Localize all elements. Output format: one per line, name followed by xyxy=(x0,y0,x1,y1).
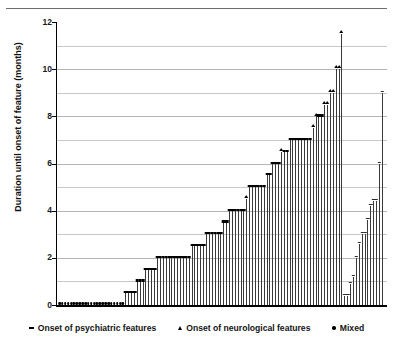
bar-series xyxy=(57,22,387,305)
dash-marker-icon xyxy=(153,268,157,270)
bar xyxy=(347,296,348,305)
bar xyxy=(370,206,371,305)
bar xyxy=(321,116,322,305)
x-axis-line xyxy=(56,305,387,307)
dash-marker-icon xyxy=(381,91,384,92)
dash-marker-icon xyxy=(29,327,34,329)
bar xyxy=(359,244,360,305)
dot-marker-icon xyxy=(332,326,335,329)
bar xyxy=(255,187,256,305)
triangle-marker-icon xyxy=(178,326,182,330)
bar xyxy=(140,281,141,305)
bar xyxy=(379,164,380,306)
bar xyxy=(241,211,242,305)
dash-marker-icon xyxy=(219,232,223,234)
bar xyxy=(200,246,201,305)
bar xyxy=(223,222,224,305)
bar xyxy=(353,277,354,305)
bar xyxy=(174,258,175,305)
bar xyxy=(298,140,299,305)
bar xyxy=(215,234,216,305)
bar xyxy=(376,201,377,305)
y-axis-tick-label: 4 xyxy=(26,206,52,215)
bar xyxy=(128,293,129,305)
triangle-marker-icon xyxy=(311,124,315,127)
legend-item-mixed: Mixed xyxy=(332,323,364,333)
bar xyxy=(180,258,181,305)
bar xyxy=(324,105,325,305)
dash-marker-icon xyxy=(308,138,312,140)
bar xyxy=(246,199,247,305)
bar xyxy=(272,164,273,306)
dash-marker-icon xyxy=(133,291,137,293)
y-axis-tick-label: 0 xyxy=(26,301,52,310)
bar xyxy=(336,69,337,305)
bar xyxy=(284,152,285,305)
bar xyxy=(160,258,161,305)
dash-marker-icon xyxy=(187,256,191,258)
bar xyxy=(264,187,265,305)
bar xyxy=(197,246,198,305)
triangle-marker-icon xyxy=(331,89,335,92)
bar xyxy=(258,187,259,305)
bar xyxy=(307,140,308,305)
y-axis-tick-label: 12 xyxy=(26,18,52,27)
bar xyxy=(166,258,167,305)
bar xyxy=(252,187,253,305)
legend-label: Onset of psychiatric features xyxy=(38,323,156,333)
dash-marker-icon xyxy=(268,173,272,175)
bar xyxy=(157,258,158,305)
triangle-marker-icon xyxy=(340,30,344,33)
legend-item-neurological: Onset of neurological features xyxy=(178,323,310,333)
dash-marker-icon xyxy=(355,256,358,257)
dash-marker-icon xyxy=(242,209,246,211)
y-axis-tick-label: 10 xyxy=(26,65,52,74)
bar xyxy=(330,93,331,305)
bar xyxy=(212,234,213,305)
bar xyxy=(365,234,366,305)
dash-marker-icon xyxy=(346,294,349,295)
dash-marker-icon xyxy=(285,150,289,152)
bar xyxy=(194,246,195,305)
bar xyxy=(206,234,207,305)
bar xyxy=(356,258,357,305)
bar xyxy=(339,69,340,305)
bar xyxy=(145,270,146,305)
bar xyxy=(287,152,288,305)
y-axis-line xyxy=(56,22,57,306)
bar xyxy=(235,211,236,305)
bar xyxy=(131,293,132,305)
bar xyxy=(304,140,305,305)
bar xyxy=(344,296,345,305)
dash-marker-icon xyxy=(141,279,145,281)
bar xyxy=(151,270,152,305)
bar xyxy=(177,258,178,305)
bar xyxy=(137,281,138,305)
bar xyxy=(189,258,190,305)
bar xyxy=(229,211,230,305)
bar xyxy=(301,140,302,305)
y-axis-tick-label: 2 xyxy=(26,253,52,262)
plot-area xyxy=(57,22,387,305)
y-axis-tick-labels: 024681012 xyxy=(0,0,52,328)
dash-marker-icon xyxy=(352,275,355,276)
bar xyxy=(275,164,276,306)
dash-marker-icon xyxy=(262,185,266,187)
bar xyxy=(341,34,342,305)
bar xyxy=(281,152,282,305)
bar xyxy=(367,220,368,305)
bar xyxy=(209,234,210,305)
bar xyxy=(148,270,149,305)
triangle-marker-icon xyxy=(337,65,341,68)
bar xyxy=(183,258,184,305)
bar xyxy=(292,140,293,305)
chart-figure: Duration until onset of feature (months)… xyxy=(0,0,393,342)
triangle-marker-icon xyxy=(245,195,249,198)
dash-marker-icon xyxy=(320,114,324,116)
bar xyxy=(154,270,155,305)
bar xyxy=(218,234,219,305)
dash-marker-icon xyxy=(366,218,369,219)
bar xyxy=(226,222,227,305)
bar xyxy=(327,105,328,305)
dash-marker-icon xyxy=(378,162,381,163)
